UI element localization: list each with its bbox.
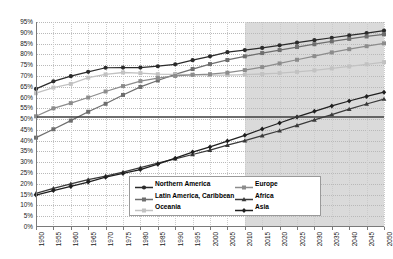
data-point-marker [121, 93, 125, 97]
data-point-marker [330, 66, 334, 70]
x-tick-mark [193, 227, 194, 230]
data-point-marker [382, 29, 386, 33]
legend-item[interactable]: Asia [234, 202, 278, 214]
data-point-marker [142, 186, 146, 190]
data-point-marker [312, 68, 316, 72]
data-point-marker [295, 58, 299, 62]
data-point-marker [347, 98, 351, 103]
data-point-marker [173, 62, 177, 66]
x-tick-mark [314, 227, 315, 230]
data-point-marker [312, 42, 316, 46]
data-point-marker [121, 84, 125, 88]
data-point-marker [312, 38, 316, 42]
data-point-marker [365, 62, 369, 66]
data-point-marker [51, 86, 55, 90]
x-tick-label: 2050 [387, 232, 393, 246]
y-tick-label: 80% [20, 51, 33, 57]
data-point-marker [173, 74, 177, 78]
data-point-marker [51, 106, 55, 110]
x-tick-mark [123, 227, 124, 230]
data-point-marker [365, 44, 369, 48]
data-point-marker [208, 144, 212, 149]
data-point-marker [243, 48, 247, 52]
data-point-marker [121, 70, 125, 74]
legend-item[interactable]: Europe [234, 179, 278, 191]
legend-swatch [134, 191, 154, 202]
legend-marker-diamond-icon [234, 205, 254, 216]
data-point-marker [86, 96, 90, 100]
x-tick-mark [227, 227, 228, 230]
data-point-marker [347, 64, 351, 68]
legend-column-left: Northern AmericaLatin America, Caribbean… [134, 179, 234, 214]
y-tick-label: 10% [20, 202, 33, 208]
data-point-marker [295, 45, 299, 49]
x-tick-mark [140, 227, 141, 230]
y-tick-label: 90% [20, 30, 33, 36]
data-point-marker [330, 36, 334, 40]
data-point-marker [382, 32, 386, 36]
data-point-marker [51, 79, 55, 83]
y-tick-label: 50% [20, 116, 33, 122]
x-tick-label: 2015 [265, 232, 271, 246]
data-point-marker [191, 58, 195, 62]
legend-item[interactable]: Northern America [134, 179, 234, 191]
data-point-marker [365, 34, 369, 38]
x-tick-mark [53, 227, 54, 230]
data-point-marker [277, 120, 281, 125]
data-point-marker [208, 62, 212, 66]
data-point-marker [104, 89, 108, 93]
x-tick-label: 2020 [282, 232, 288, 246]
legend-item-label: Asia [255, 204, 269, 211]
legend-item[interactable]: Latin America, Caribbean [134, 191, 234, 203]
y-tick-label: 45% [20, 127, 33, 133]
x-tick-mark [262, 227, 263, 230]
x-tick-label: 2045 [369, 232, 375, 246]
data-point-marker [225, 71, 229, 75]
data-point-marker [330, 103, 334, 108]
data-point-marker [86, 76, 90, 80]
x-tick-label: 2040 [352, 232, 358, 246]
x-tick-label: 2010 [247, 232, 253, 246]
data-point-marker [156, 64, 160, 68]
data-point-marker [278, 71, 282, 75]
y-tick-label: 25% [20, 170, 33, 176]
y-tick-label: 30% [20, 159, 33, 165]
x-tick-label: 1995 [195, 232, 201, 246]
data-point-marker [242, 208, 246, 213]
data-point-marker [243, 73, 247, 77]
x-tick-mark [332, 227, 333, 230]
legend-swatch [134, 202, 154, 213]
legend-marker-square-icon [134, 205, 154, 216]
data-point-marker [260, 46, 264, 50]
legend-item[interactable]: Africa [234, 191, 278, 203]
y-tick-label: 95% [20, 19, 33, 25]
data-point-marker [242, 186, 246, 190]
data-point-marker [142, 209, 146, 213]
x-tick-label: 1960 [73, 232, 79, 246]
legend-swatch [134, 179, 154, 190]
y-tick-label: 85% [20, 40, 33, 46]
data-point-marker [312, 54, 316, 58]
legend-item-label: Latin America, Caribbean [155, 193, 234, 200]
data-point-marker [138, 65, 142, 69]
data-point-marker [260, 72, 264, 76]
x-tick-mark [297, 227, 298, 230]
data-point-marker [347, 47, 351, 51]
x-tick-mark [88, 227, 89, 230]
data-point-marker [69, 119, 73, 123]
x-tick-label: 2005 [230, 232, 236, 246]
data-point-marker [69, 74, 73, 78]
y-tick-label: 15% [20, 191, 33, 197]
series-latin-america-caribbean [34, 32, 386, 139]
x-tick-label: 1975 [126, 232, 132, 246]
x-tick-label: 1990 [178, 232, 184, 246]
x-tick-mark [245, 227, 246, 230]
y-tick-label: 65% [20, 84, 33, 90]
data-point-marker [382, 60, 386, 64]
y-tick-label: 60% [20, 94, 33, 100]
x-tick-label: 2030 [317, 232, 323, 246]
data-point-marker [225, 139, 229, 144]
data-point-marker [312, 109, 316, 114]
legend-item[interactable]: Oceania [134, 202, 234, 214]
